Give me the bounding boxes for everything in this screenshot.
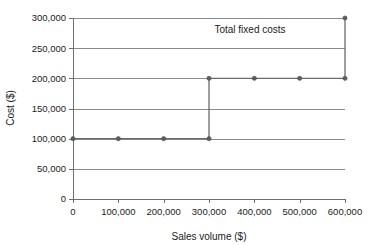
data-point-marker <box>252 76 256 80</box>
y-tick-label-200000: 200,000 <box>32 73 66 84</box>
data-point-marker <box>207 76 211 80</box>
data-point-marker <box>207 137 211 141</box>
data-point-marker <box>298 76 302 80</box>
y-tick-label-100000: 100,000 <box>32 133 66 144</box>
x-tick-label-400000: 400,000 <box>237 206 271 217</box>
x-tick-label-0: 0 <box>70 206 75 217</box>
chart-figure: 050,000100,000150,000200,000250,000300,0… <box>0 0 378 245</box>
x-tick-label-200000: 200,000 <box>146 206 180 217</box>
x-axis-tick-labels: 0100,000200,000300,000400,000500,000600,… <box>70 206 362 217</box>
x-tick-label-600000: 600,000 <box>328 206 362 217</box>
chart-annotation-total-fixed-costs: Total fixed costs <box>214 24 285 35</box>
y-axis-title: Cost ($) <box>5 90 16 126</box>
x-tick-label-500000: 500,000 <box>282 206 316 217</box>
y-axis-tick-labels: 050,000100,000150,000200,000250,000300,0… <box>32 12 66 204</box>
y-tick-label-50000: 50,000 <box>37 163 66 174</box>
chart-plot-svg: 050,000100,000150,000200,000250,000300,0… <box>0 0 378 245</box>
y-tick-label-150000: 150,000 <box>32 103 66 114</box>
data-point-marker <box>343 76 347 80</box>
tick-marks-group <box>69 19 346 204</box>
y-tick-label-250000: 250,000 <box>32 43 66 54</box>
data-point-marker <box>162 137 166 141</box>
data-point-marker <box>71 137 75 141</box>
y-tick-label-300000: 300,000 <box>32 12 66 23</box>
data-point-marker <box>343 16 347 20</box>
y-tick-label-0: 0 <box>61 193 66 204</box>
x-axis-title: Sales volume ($) <box>171 231 246 242</box>
x-tick-label-300000: 300,000 <box>192 206 226 217</box>
x-tick-label-100000: 100,000 <box>101 206 135 217</box>
data-point-marker <box>116 137 120 141</box>
